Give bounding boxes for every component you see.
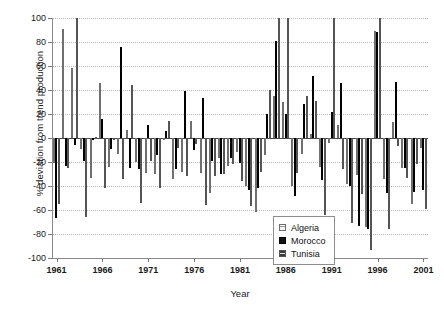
bar-tunisia-1993 <box>351 138 353 223</box>
x-tick-label-2001: 2001 <box>413 265 433 275</box>
legend: Algeria Morocco Tunisia <box>273 216 335 265</box>
x-tick-label-1981: 1981 <box>230 265 250 275</box>
bar-algeria-1977 <box>200 138 202 173</box>
bar-morocco-1966 <box>101 119 103 138</box>
bar-algeria-1962 <box>62 29 64 138</box>
bar-group-1964 <box>80 18 89 258</box>
bar-morocco-1968 <box>120 47 122 138</box>
bar-group-1979 <box>217 18 226 258</box>
legend-swatch-tunisia <box>279 250 286 257</box>
bar-algeria-1973 <box>163 138 165 140</box>
bar-group-1977 <box>199 18 208 258</box>
legend-item-tunisia: Tunisia <box>279 247 326 260</box>
bar-tunisia-1995 <box>370 138 372 250</box>
bar-group-2001 <box>419 18 428 258</box>
bar-algeria-1963 <box>71 68 73 138</box>
bar-algeria-1984 <box>264 138 266 155</box>
bar-group-1970 <box>135 18 144 258</box>
bar-algeria-1976 <box>190 121 192 138</box>
bar-group-1965 <box>89 18 98 258</box>
bar-tunisia-1989 <box>315 101 317 138</box>
bar-tunisia-1990 <box>324 138 326 215</box>
legend-item-morocco: Morocco <box>279 234 326 247</box>
bar-tunisia-1966 <box>104 138 106 188</box>
bar-tunisia-1970 <box>140 138 142 203</box>
bar-group-1978 <box>208 18 217 258</box>
bar-group-1963 <box>70 18 79 258</box>
x-tick-mark-1966 <box>102 258 103 262</box>
bar-tunisia-1969 <box>131 85 133 138</box>
bar-tunisia-1981 <box>241 138 243 181</box>
x-axis-title: Year <box>52 288 428 299</box>
x-tick-mark-1976 <box>194 258 195 262</box>
bar-tunisia-1997 <box>388 138 390 229</box>
bar-tunisia-1992 <box>342 138 344 169</box>
x-tick-label-1976: 1976 <box>184 265 204 275</box>
bar-tunisia-1979 <box>223 138 225 174</box>
bar-group-1975 <box>180 18 189 258</box>
x-tick-mark-1961 <box>57 258 58 262</box>
x-tick-label-1991: 1991 <box>322 265 342 275</box>
bar-group-1962 <box>61 18 70 258</box>
x-tick-label-1986: 1986 <box>276 265 296 275</box>
bar-algeria-1988 <box>301 138 303 154</box>
bar-tunisia-1985 <box>278 18 280 138</box>
bar-algeria-1971 <box>145 138 147 173</box>
x-tick-mark-1971 <box>148 258 149 262</box>
bar-tunisia-1974 <box>177 138 179 148</box>
chart-figure: % deviation from trend production 100806… <box>0 0 444 310</box>
bar-tunisia-1961 <box>58 138 60 204</box>
bar-tunisia-1986 <box>287 18 289 138</box>
bar-group-2000 <box>410 18 419 258</box>
x-tick-label-1996: 1996 <box>368 265 388 275</box>
bar-tunisia-1980 <box>232 138 234 164</box>
bar-morocco-1992 <box>340 83 342 138</box>
bar-algeria-1969 <box>126 130 128 138</box>
plot-area: 100806040200-20-40-60-80-100 19611966197… <box>52 18 428 258</box>
bar-tunisia-1968 <box>122 138 124 179</box>
bar-tunisia-1994 <box>361 138 363 194</box>
bar-group-1981 <box>235 18 244 258</box>
bar-series-container <box>52 18 428 258</box>
bar-group-1996 <box>373 18 382 258</box>
bar-tunisia-1972 <box>159 138 161 188</box>
bar-tunisia-1963 <box>76 18 78 138</box>
bar-group-1998 <box>391 18 400 258</box>
bar-morocco-1998 <box>395 82 397 138</box>
x-tick-mark-2001 <box>423 258 424 262</box>
legend-label-algeria: Algeria <box>291 223 319 233</box>
legend-swatch-algeria <box>279 224 286 231</box>
bar-algeria-1968 <box>117 138 119 154</box>
bar-tunisia-1982 <box>250 138 252 206</box>
bar-morocco-1975 <box>184 91 186 138</box>
bar-tunisia-1998 <box>397 138 399 146</box>
x-tick-mark-1996 <box>378 258 379 262</box>
bar-group-1973 <box>162 18 171 258</box>
x-tick-label-1966: 1966 <box>92 265 112 275</box>
legend-swatch-morocco <box>279 237 286 244</box>
bar-algeria-1991 <box>328 138 330 143</box>
bar-tunisia-1967 <box>113 138 115 140</box>
bar-group-1976 <box>190 18 199 258</box>
x-tick-label-1961: 1961 <box>47 265 67 275</box>
bar-tunisia-2001 <box>425 138 427 209</box>
bar-algeria-1975 <box>181 138 183 172</box>
bar-group-1995 <box>364 18 373 258</box>
y-tick-mark--100 <box>48 258 52 259</box>
bar-morocco-1971 <box>147 125 149 138</box>
bar-group-1980 <box>226 18 235 258</box>
bar-tunisia-1964 <box>85 138 87 217</box>
bar-tunisia-1971 <box>150 138 152 161</box>
bar-tunisia-1975 <box>186 138 188 176</box>
bar-group-1966 <box>98 18 107 258</box>
bar-group-1984 <box>263 18 272 258</box>
bar-group-1967 <box>107 18 116 258</box>
bar-tunisia-1988 <box>306 96 308 138</box>
bar-group-1982 <box>245 18 254 258</box>
bar-algeria-1965 <box>90 138 92 178</box>
bar-group-1974 <box>171 18 180 258</box>
bar-tunisia-1962 <box>67 138 69 168</box>
legend-item-algeria: Algeria <box>279 221 326 234</box>
legend-label-morocco: Morocco <box>291 236 326 246</box>
bar-group-1972 <box>153 18 162 258</box>
